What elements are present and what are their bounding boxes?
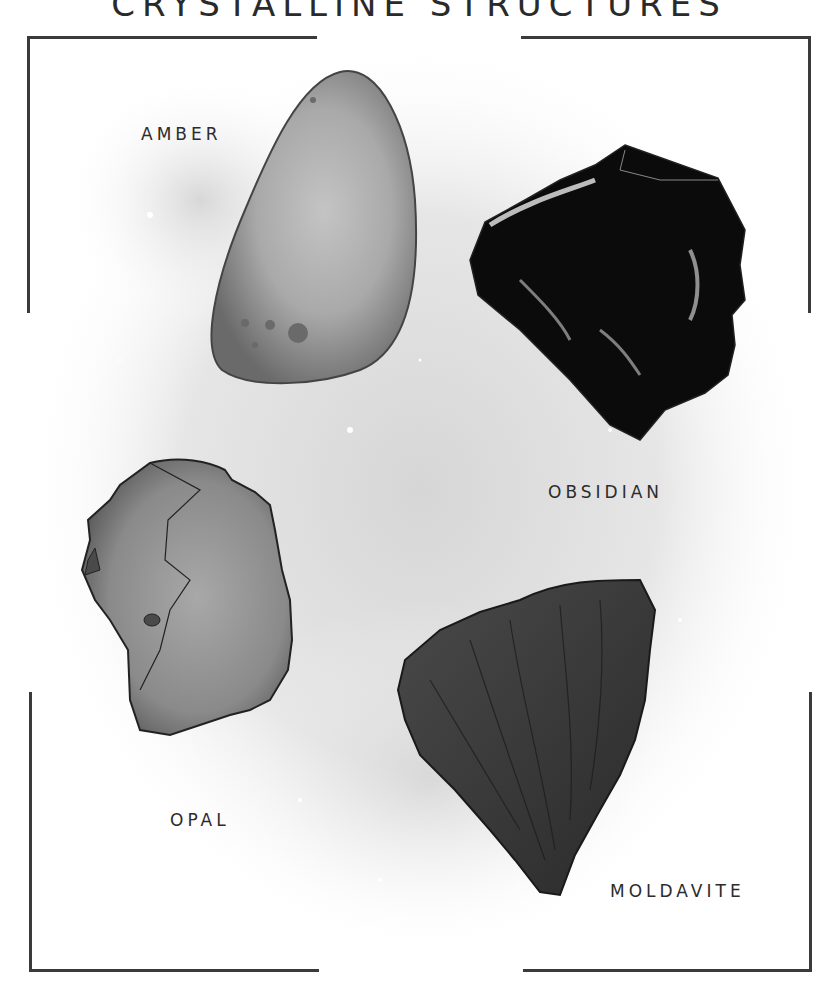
obsidian-stone-icon bbox=[470, 145, 745, 440]
moldavite-stone-icon bbox=[398, 580, 655, 895]
label-amber: AMBER bbox=[141, 124, 222, 144]
label-opal: OPAL bbox=[170, 810, 230, 830]
opal-stone-icon bbox=[82, 459, 292, 735]
label-obsidian: OBSIDIAN bbox=[548, 482, 663, 502]
amber-stone-icon bbox=[212, 71, 417, 383]
stones-illustration bbox=[0, 0, 838, 985]
label-moldavite: MOLDAVITE bbox=[610, 881, 745, 901]
